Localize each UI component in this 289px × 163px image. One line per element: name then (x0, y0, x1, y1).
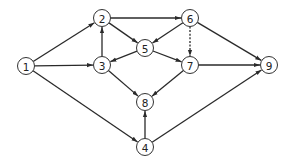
node-7: 7 (182, 57, 199, 74)
edge-4-to-9 (152, 70, 261, 142)
edge-6-to-9 (197, 22, 261, 60)
node-1: 1 (18, 58, 35, 75)
node-2: 2 (94, 10, 111, 27)
node-label: 4 (142, 142, 149, 154)
node-label: 9 (266, 60, 273, 72)
edges-layer (33, 18, 261, 142)
node-3: 3 (94, 57, 111, 74)
node-label: 2 (99, 13, 106, 25)
directed-graph: 123456789 (0, 0, 289, 163)
node-9: 9 (261, 57, 278, 74)
edge-6-to-5 (152, 23, 182, 43)
edge-3-to-8 (108, 71, 138, 97)
edge-5-to-3 (110, 51, 137, 62)
node-label: 5 (142, 43, 149, 55)
edge-5-to-7 (153, 51, 182, 62)
node-label: 7 (187, 60, 194, 72)
edge-7-to-8 (152, 70, 183, 96)
node-label: 8 (142, 97, 149, 109)
edge-1-to-2 (33, 23, 94, 62)
nodes-layer: 123456789 (18, 10, 278, 156)
node-5: 5 (137, 40, 154, 57)
node-8: 8 (137, 94, 154, 111)
node-label: 3 (99, 60, 106, 72)
node-label: 6 (187, 13, 194, 25)
node-6: 6 (182, 10, 199, 27)
edge-2-to-5 (109, 23, 138, 43)
node-label: 1 (23, 61, 30, 73)
node-4: 4 (137, 139, 154, 156)
edge-1-to-3 (34, 65, 93, 66)
